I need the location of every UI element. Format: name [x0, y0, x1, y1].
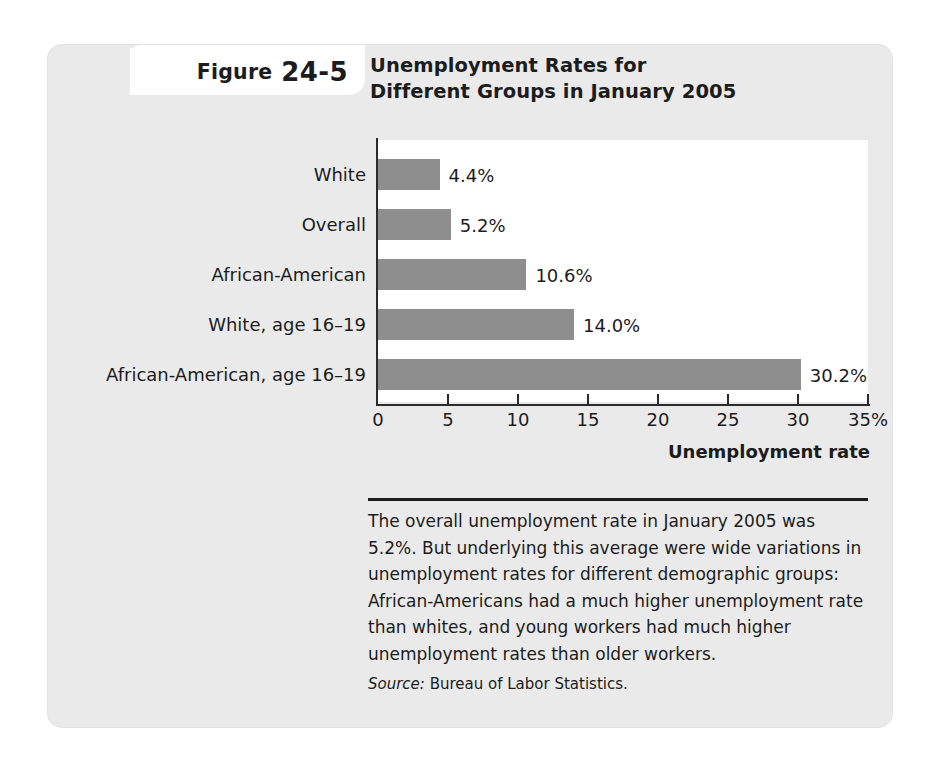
bar	[378, 209, 451, 240]
figure-tab-label: Figure 24-5	[130, 48, 348, 95]
bar-row: 4.4%	[378, 159, 939, 190]
x-axis-title: Unemployment rate	[370, 441, 870, 462]
x-axis-tick-label: 25	[717, 409, 740, 430]
bar-row: 30.2%	[378, 359, 939, 390]
category-label: Overall	[66, 209, 366, 240]
x-axis-line	[376, 404, 870, 406]
x-axis-tick-label: 20	[647, 409, 670, 430]
caption-text: The overall unemployment rate in January…	[368, 508, 868, 667]
bar-row: 5.2%	[378, 209, 939, 240]
x-axis-tick-label: 5	[442, 409, 453, 430]
chart-title-line-1: Unemployment Rates for	[370, 53, 870, 79]
x-axis-tick	[587, 394, 589, 405]
x-axis-tick	[517, 394, 519, 405]
x-axis-tick	[867, 394, 869, 405]
bar	[378, 309, 574, 340]
category-label: African-American, age 16–19	[66, 359, 366, 390]
x-axis-tick	[797, 394, 799, 405]
bar-row: 10.6%	[378, 259, 939, 290]
bar-value-label: 14.0%	[583, 314, 640, 335]
bar	[378, 159, 440, 190]
bar	[378, 359, 801, 390]
bar-value-label: 5.2%	[460, 214, 506, 235]
x-axis-tick-label: 35%	[848, 409, 888, 430]
figure-panel: Figure 24-5 Unemployment Rates for Diffe…	[48, 45, 892, 727]
bar-value-label: 10.6%	[535, 264, 592, 285]
chart-title-line-2: Different Groups in January 2005	[370, 79, 870, 105]
bar	[378, 259, 526, 290]
bar-value-label: 4.4%	[449, 164, 495, 185]
x-axis-tick-label: 10	[507, 409, 530, 430]
bar-row: 14.0%	[378, 309, 939, 340]
source-value: Bureau of Labor Statistics.	[430, 675, 628, 693]
category-label: White, age 16–19	[66, 309, 366, 340]
x-axis-tick	[727, 394, 729, 405]
bar-value-label: 30.2%	[810, 364, 867, 385]
chart-title: Unemployment Rates for Different Groups …	[370, 53, 870, 105]
source-line: Source: Bureau of Labor Statistics.	[368, 675, 868, 693]
y-axis-line	[376, 138, 378, 405]
x-axis-tick-label: 15	[577, 409, 600, 430]
caption-divider	[368, 498, 868, 501]
figure-word: Figure	[197, 60, 273, 84]
x-axis-tick-label: 0	[372, 409, 383, 430]
category-axis-labels: WhiteOverallAfrican-AmericanWhite, age 1…	[60, 140, 366, 402]
x-axis-tick	[657, 394, 659, 405]
source-label: Source:	[368, 675, 425, 693]
x-axis-tick	[447, 394, 449, 405]
category-label: White	[66, 159, 366, 190]
figure-number: 24-5	[281, 57, 348, 87]
x-axis-tick-label: 30	[787, 409, 810, 430]
category-label: African-American	[66, 259, 366, 290]
